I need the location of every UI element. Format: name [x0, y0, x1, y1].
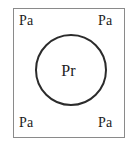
unit-cell-figure: Pa Pa Pr Pa Pa: [0, 0, 137, 147]
atom-label-center: Pr: [0, 63, 137, 79]
atom-label-top-left: Pa: [19, 14, 33, 28]
atom-label-bottom-right: Pa: [98, 116, 112, 130]
atom-label-bottom-left: Pa: [19, 116, 33, 130]
atom-label-top-right: Pa: [98, 14, 112, 28]
